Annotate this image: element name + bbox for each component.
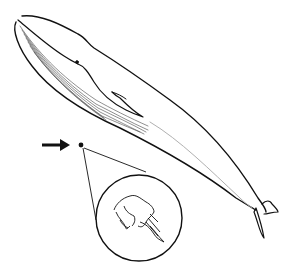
illustration-canvas	[0, 0, 296, 274]
magnifier-circle	[96, 175, 182, 261]
whale-illustration	[0, 0, 296, 274]
tiny-creature-dot	[79, 143, 84, 148]
pointer-arrow-icon	[42, 139, 70, 151]
